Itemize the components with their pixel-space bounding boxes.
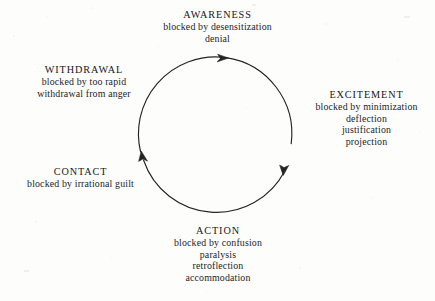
node-excitement-line-4: projection	[298, 136, 435, 148]
node-action-line-1: blocked by confusion	[152, 237, 284, 249]
diagram-canvas: AWARENESS blocked by desensitization den…	[0, 0, 435, 301]
node-action-title: ACTION	[152, 225, 284, 237]
node-withdrawal-title: WITHDRAWAL	[4, 64, 164, 76]
node-excitement-title: EXCITEMENT	[298, 89, 435, 101]
node-withdrawal-line-1: blocked by too rapid	[4, 76, 164, 88]
node-withdrawal: WITHDRAWAL blocked by too rapid withdraw…	[4, 64, 164, 99]
node-action-line-4: accommodation	[152, 272, 284, 284]
node-excitement-line-1: blocked by minimization	[298, 101, 435, 113]
node-excitement-line-2: deflection	[298, 113, 435, 125]
node-contact-line-1: blocked by irrational guilt	[4, 178, 157, 190]
node-withdrawal-line-2: withdrawal from anger	[4, 88, 164, 100]
node-awareness: AWARENESS blocked by desensitization den…	[0, 9, 435, 44]
node-awareness-title: AWARENESS	[0, 9, 435, 21]
right-arrowhead	[280, 165, 289, 176]
node-awareness-line-2: denial	[0, 33, 435, 45]
node-excitement-line-3: justification	[298, 124, 435, 136]
node-action-line-3: retroflection	[152, 260, 284, 272]
node-awareness-line-1: blocked by desensitization	[0, 21, 435, 33]
node-action-line-2: paralysis	[152, 249, 284, 261]
top-arrowhead	[217, 54, 229, 62]
node-contact: CONTACT blocked by irrational guilt	[4, 166, 157, 190]
node-excitement: EXCITEMENT blocked by minimization defle…	[298, 89, 435, 147]
node-contact-title: CONTACT	[4, 166, 157, 178]
node-action: ACTION blocked by confusion paralysis re…	[152, 225, 284, 283]
